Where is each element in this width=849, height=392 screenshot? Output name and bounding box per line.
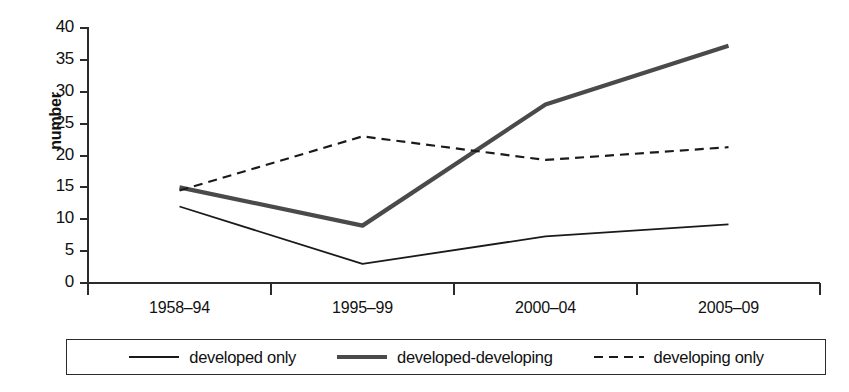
legend-item[interactable]: developed only [128, 348, 296, 367]
series-line [180, 46, 729, 226]
plot-canvas [0, 0, 849, 392]
legend-line-icon [593, 350, 645, 364]
legend-label: developing only [654, 348, 764, 367]
chart-page: number 0510152025303540 1958–941995–9920… [0, 0, 849, 392]
series-group [180, 46, 729, 264]
axes-group [80, 27, 820, 295]
chart-legend: developed onlydeveloped-developingdevelo… [66, 339, 826, 375]
legend-item[interactable]: developing only [593, 348, 764, 367]
legend-line-icon [336, 350, 388, 364]
legend-entries: developed onlydeveloped-developingdevelo… [67, 340, 825, 374]
line-chart-figure: number 0510152025303540 1958–941995–9920… [0, 0, 849, 392]
legend-label: developed only [189, 348, 296, 367]
series-line [180, 207, 729, 264]
legend-item[interactable]: developed-developing [336, 348, 552, 367]
legend-label: developed-developing [397, 348, 552, 367]
legend-line-icon [128, 350, 180, 364]
